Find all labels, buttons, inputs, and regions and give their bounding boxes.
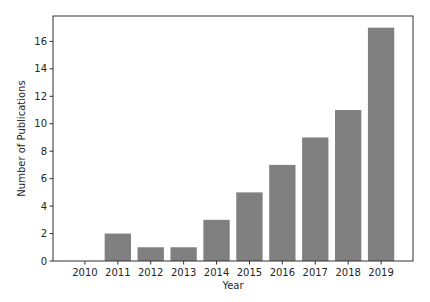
x-tick-label: 2011 [105, 267, 130, 278]
bar-2011 [105, 234, 131, 261]
bar-chart: 2010201120122013201420152016201720182019… [0, 0, 430, 302]
x-tick-label: 2010 [72, 267, 97, 278]
bar-2012 [138, 247, 164, 261]
y-tick-label: 12 [34, 91, 47, 102]
y-tick-label: 8 [41, 146, 47, 157]
y-tick-label: 16 [34, 36, 47, 47]
bar-2013 [170, 247, 196, 261]
y-tick-label: 10 [34, 118, 47, 129]
x-tick-label: 2017 [303, 267, 328, 278]
x-tick-label: 2015 [237, 267, 262, 278]
bar-2015 [236, 192, 262, 261]
y-tick-label: 4 [41, 201, 47, 212]
x-tick-label: 2019 [368, 267, 393, 278]
x-axis-label: Year [221, 280, 244, 291]
y-tick-label: 2 [41, 228, 47, 239]
y-axis-label: Number of Publications [16, 80, 27, 196]
y-axis-ticks: 0246810121416 [34, 36, 53, 267]
bar-2018 [335, 110, 361, 261]
x-axis-ticks: 2010201120122013201420152016201720182019 [72, 261, 394, 278]
x-tick-label: 2014 [204, 267, 229, 278]
y-tick-label: 0 [41, 256, 47, 267]
bar-2019 [368, 28, 394, 261]
x-tick-label: 2012 [138, 267, 163, 278]
bar-2014 [203, 220, 229, 261]
y-tick-label: 14 [34, 63, 47, 74]
y-tick-label: 6 [41, 173, 47, 184]
x-tick-label: 2018 [335, 267, 360, 278]
x-tick-label: 2016 [270, 267, 295, 278]
x-tick-label: 2013 [171, 267, 196, 278]
bar-2016 [269, 165, 295, 261]
bars [105, 28, 395, 261]
bar-2017 [302, 137, 328, 261]
